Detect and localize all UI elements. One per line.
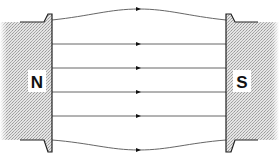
arrow-right-icon xyxy=(136,114,141,118)
field-line-bottom-curved xyxy=(52,140,226,150)
arrow-right-icon xyxy=(136,90,141,94)
north-pole-magnet: N xyxy=(0,14,52,152)
south-pole-magnet: S xyxy=(226,14,279,152)
arrow-right-icon xyxy=(136,148,141,152)
north-pole-label: N xyxy=(31,73,43,92)
field-lines xyxy=(52,9,226,150)
south-pole-label: S xyxy=(236,73,247,92)
field-direction-arrows xyxy=(136,7,141,152)
field-line-top-curved xyxy=(52,9,226,20)
arrow-right-icon xyxy=(136,7,141,11)
arrow-right-icon xyxy=(136,42,141,46)
magnetic-field-diagram: N S xyxy=(0,0,279,159)
arrow-right-icon xyxy=(136,66,141,70)
